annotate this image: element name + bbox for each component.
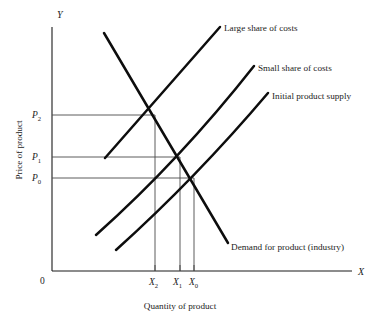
curve-label-small-share-of-costs: Small share of costs [258, 63, 332, 73]
y-tick-label-group: P2 P1 P0 [31, 110, 42, 185]
curve-label-demand-for-product: Demand for product (industry) [231, 242, 344, 252]
x-tick-label-x1: X1 [172, 277, 182, 289]
x-tick-label-x0: X0 [188, 277, 199, 289]
curve-initial-product-supply [116, 93, 268, 250]
supply-demand-chart: Y X 0 P2 P1 P0 X2 X1 X0 [0, 0, 373, 318]
curve-large-share-of-costs [105, 27, 220, 158]
curve-label-group: Large share of costs Small share of cost… [224, 23, 352, 252]
x-tick-group [155, 265, 194, 271]
y-tick-label-p2: P2 [31, 110, 41, 122]
curve-small-share-of-costs [96, 66, 254, 235]
curve-label-initial-product-supply: Initial product supply [272, 91, 352, 101]
x-axis-letter: X [357, 266, 365, 277]
x-tick-label-x2: X2 [148, 277, 158, 289]
y-axis-title: Price of product [14, 120, 24, 180]
origin-label: 0 [40, 276, 45, 286]
y-axis-letter: Y [57, 9, 64, 20]
figure-root: Y X 0 P2 P1 P0 X2 X1 X0 [0, 0, 373, 318]
curve-label-large-share-of-costs: Large share of costs [224, 23, 298, 33]
y-tick-label-p0: P0 [31, 173, 42, 185]
x-tick-label-group: X2 X1 X0 [148, 277, 199, 289]
curve-group [96, 27, 268, 250]
x-axis-title: Quantity of product [144, 301, 217, 311]
y-tick-label-p1: P1 [31, 152, 41, 164]
